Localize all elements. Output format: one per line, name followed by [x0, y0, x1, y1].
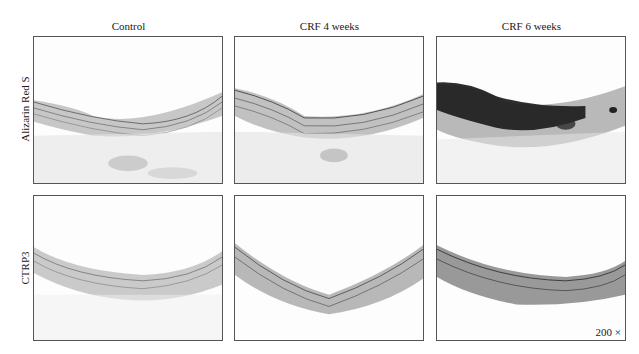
column-label-crf-6-weeks: CRF 6 weeks — [436, 20, 627, 32]
magnification-label: 200 × — [596, 326, 621, 338]
column-label-control: Control — [33, 20, 224, 32]
row-label-alizarin-red-s: Alizarin Red S — [19, 49, 31, 169]
tissue-micrograph — [34, 196, 222, 340]
tissue-micrograph — [235, 37, 423, 183]
panel-ctrp3-control — [33, 195, 223, 341]
column-label-crf-4-weeks: CRF 4 weeks — [234, 20, 425, 32]
panel-ctrp3-crf-6-weeks: 200 × — [436, 195, 626, 341]
tissue-micrograph — [235, 196, 423, 340]
panel-alizarin-control — [33, 36, 223, 184]
panel-alizarin-crf-4-weeks — [234, 36, 424, 184]
tissue-micrograph — [437, 37, 625, 183]
row-label-ctrp3: CTRP3 — [19, 208, 31, 328]
tissue-micrograph — [437, 196, 625, 340]
tissue-micrograph — [34, 37, 222, 183]
panel-alizarin-crf-6-weeks — [436, 36, 626, 184]
panel-ctrp3-crf-4-weeks — [234, 195, 424, 341]
